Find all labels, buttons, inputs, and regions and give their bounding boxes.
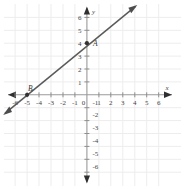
y-tick-label: -2: [93, 111, 99, 119]
x-tick-label-zero: 0: [82, 99, 86, 107]
coordinate-plane-svg: -6 -5 -4 -3 -2 -1 0 1 2 3 4 5 6 6 5 4 3 …: [0, 0, 185, 189]
point-b-label: B: [28, 84, 33, 93]
y-tick-label: 5: [78, 27, 82, 35]
y-tick-label: -5: [93, 150, 99, 158]
x-tick-label: 5: [145, 99, 149, 107]
point-a-marker: [85, 41, 89, 45]
x-tick-label: 4: [133, 99, 137, 107]
y-tick-label: 1: [78, 79, 82, 87]
x-tick-label: 6: [157, 99, 161, 107]
x-tick-label: 3: [121, 99, 125, 107]
y-tick-label: -3: [93, 124, 99, 132]
y-tick-label: -1: [93, 99, 99, 107]
x-tick-label: 2: [109, 99, 113, 107]
coordinate-graph-figure: -6 -5 -4 -3 -2 -1 0 1 2 3 4 5 6 6 5 4 3 …: [0, 0, 185, 189]
x-tick-label: -3: [48, 99, 54, 107]
y-tick-label: 4: [78, 40, 82, 48]
x-tick-label: -4: [36, 99, 42, 107]
y-tick-label: 6: [78, 14, 82, 22]
point-b-marker: [25, 93, 29, 97]
point-a-label: A: [92, 39, 98, 48]
x-tick-label: -1: [72, 99, 78, 107]
x-tick-label: -2: [60, 99, 66, 107]
y-tick-label: -6: [93, 163, 99, 171]
x-tick-label: -5: [24, 99, 30, 107]
y-tick-label: 2: [78, 66, 82, 74]
y-tick-label: -4: [93, 137, 99, 145]
